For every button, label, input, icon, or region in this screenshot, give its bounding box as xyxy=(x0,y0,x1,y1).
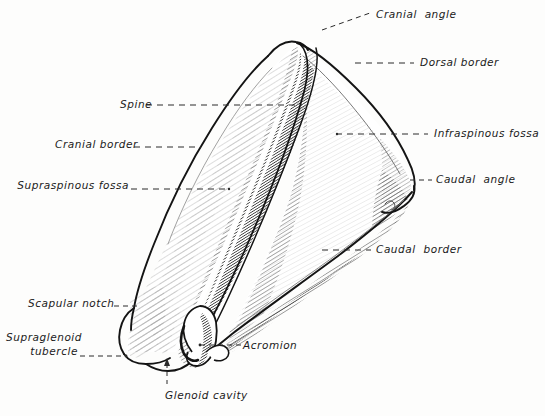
tip-acromion xyxy=(199,344,202,347)
label-cranial-angle: Cranial angle xyxy=(376,8,457,22)
label-scapular-notch: Scapular notch xyxy=(28,297,113,311)
label-supraglenoid-tubercle: Supraglenoid tubercle xyxy=(6,331,78,358)
label-caudal-border: Caudal border xyxy=(376,243,462,257)
tip-supraglenoid-tubercle xyxy=(125,355,128,358)
label-infraspinous-fossa: Infraspinous fossa xyxy=(434,127,539,141)
leader-cranial-angle xyxy=(322,13,370,30)
tip-supraspinous-fossa xyxy=(228,188,230,190)
anatomical-figure: Cranial angle Dorsal border Infraspinous… xyxy=(0,0,545,416)
label-caudal-angle: Caudal angle xyxy=(436,173,515,187)
label-cranial-border: Cranial border xyxy=(55,138,133,152)
label-spine: Spine xyxy=(120,98,146,112)
label-glenoid-cavity: Glenoid cavity xyxy=(165,389,248,403)
label-acromion: Acromion xyxy=(243,339,297,353)
label-dorsal-border: Dorsal border xyxy=(420,56,499,70)
tip-infraspinous-fossa xyxy=(336,133,338,135)
label-supraspinous-fossa: Supraspinous fossa xyxy=(11,179,129,193)
